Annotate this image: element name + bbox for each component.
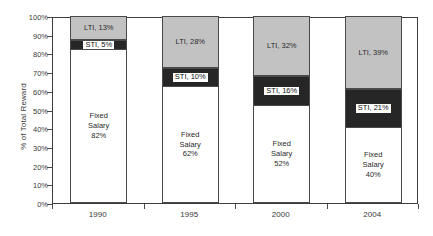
bar-group[interactable]: Fixed Salary 52%STI, 16%LTI, 32%: [253, 16, 310, 203]
bar-segment-label: STI, 5%: [83, 41, 114, 50]
bar-segment-fixed[interactable]: Fixed Salary 82%: [70, 50, 127, 203]
x-axis-tick-mark: [327, 204, 328, 209]
y-axis-tick-label: 80%: [2, 50, 48, 59]
bar-segment-label: Fixed Salary 62%: [180, 130, 201, 160]
bar-segment-label: STI, 10%: [173, 73, 208, 82]
bar-segment-lti[interactable]: LTI, 13%: [70, 16, 127, 40]
y-axis-tick-label: 40%: [2, 125, 48, 134]
bar-segment-sti[interactable]: STI, 16%: [253, 76, 310, 106]
x-axis-tick-mark: [52, 204, 53, 209]
x-axis-tick-mark: [235, 204, 236, 209]
bar-segment-fixed[interactable]: Fixed Salary 40%: [345, 128, 402, 203]
bar-segment-label: STI, 21%: [356, 104, 391, 113]
plot-area: Fixed Salary 82%STI, 5%LTI, 13%Fixed Sal…: [52, 17, 418, 204]
bar-segment-label: LTI, 13%: [84, 23, 113, 33]
bar-segment-fixed[interactable]: Fixed Salary 52%: [253, 106, 310, 203]
bar-segment-label: LTI, 28%: [176, 37, 205, 47]
x-axis-tick-mark: [418, 204, 419, 209]
bar-segment-sti[interactable]: STI, 5%: [70, 40, 127, 49]
bar-segment-label: Fixed Salary 82%: [88, 111, 109, 141]
y-axis-tick-label: 90%: [2, 31, 48, 40]
bar-segment-label: STI, 16%: [264, 87, 299, 96]
bar-segment-fixed[interactable]: Fixed Salary 62%: [162, 87, 219, 203]
bar-segment-lti[interactable]: LTI, 32%: [253, 16, 310, 76]
y-axis-tick-label: 50%: [2, 106, 48, 115]
x-axis-tick-label: 1995: [159, 210, 219, 219]
stacked-bar-chart: % of Total Reward 0%10%20%30%40%50%60%70…: [0, 0, 433, 236]
bar-segment-sti[interactable]: STI, 21%: [345, 89, 402, 128]
bar-group[interactable]: Fixed Salary 40%STI, 21%LTI, 39%: [345, 16, 402, 203]
y-axis-tick-label: 60%: [2, 87, 48, 96]
bar-segment-lti[interactable]: LTI, 28%: [162, 16, 219, 68]
y-axis-tick-label: 30%: [2, 143, 48, 152]
bar-segment-label: Fixed Salary 52%: [271, 139, 292, 169]
bar-segment-sti[interactable]: STI, 10%: [162, 68, 219, 87]
y-axis-tick-label: 100%: [2, 13, 48, 22]
bar-group[interactable]: Fixed Salary 62%STI, 10%LTI, 28%: [162, 16, 219, 203]
x-axis-tick-label: 2004: [342, 210, 402, 219]
y-axis-tick-label: 0%: [2, 200, 48, 209]
y-axis-tick-label: 70%: [2, 69, 48, 78]
bar-segment-label: Fixed Salary 40%: [363, 150, 384, 180]
bar-segment-lti[interactable]: LTI, 39%: [345, 16, 402, 89]
bar-group[interactable]: Fixed Salary 82%STI, 5%LTI, 13%: [70, 16, 127, 203]
bar-segment-label: LTI, 32%: [267, 41, 296, 51]
y-axis-tick-label: 10%: [2, 181, 48, 190]
x-axis-tick-mark: [144, 204, 145, 209]
y-axis-tick-label: 20%: [2, 162, 48, 171]
bar-segment-label: LTI, 39%: [359, 48, 388, 58]
x-axis-tick-label: 1990: [68, 210, 128, 219]
x-axis-tick-label: 2000: [251, 210, 311, 219]
